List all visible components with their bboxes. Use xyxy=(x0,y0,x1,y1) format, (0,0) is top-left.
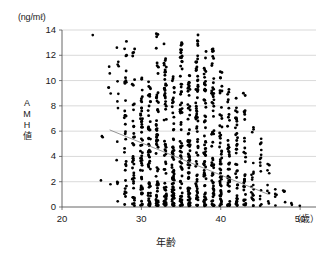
data-point xyxy=(149,100,152,103)
data-point xyxy=(155,139,158,142)
data-point xyxy=(196,116,199,119)
data-point xyxy=(195,105,198,108)
data-point xyxy=(125,70,128,73)
data-point xyxy=(109,92,112,95)
data-point xyxy=(236,136,239,139)
data-point xyxy=(163,182,166,185)
data-point xyxy=(210,133,213,136)
y-tick-label-10: 10 xyxy=(34,75,56,86)
data-point xyxy=(147,114,150,117)
data-point xyxy=(260,149,263,152)
data-point xyxy=(204,154,207,157)
data-point xyxy=(123,151,126,154)
data-point xyxy=(149,86,152,89)
data-point xyxy=(156,133,159,136)
data-point xyxy=(203,73,206,76)
data-point xyxy=(140,131,143,134)
data-point xyxy=(259,195,262,198)
data-point xyxy=(196,180,199,183)
data-point xyxy=(196,138,199,141)
data-point xyxy=(243,147,246,150)
data-point xyxy=(163,168,166,171)
data-point xyxy=(196,43,199,46)
data-point xyxy=(140,78,143,81)
data-point xyxy=(180,142,183,145)
data-point xyxy=(227,147,230,150)
data-point xyxy=(211,141,214,144)
data-point xyxy=(157,101,160,104)
data-point xyxy=(165,118,168,121)
data-point xyxy=(236,187,239,190)
data-point xyxy=(181,144,184,147)
data-point xyxy=(117,107,120,110)
data-point xyxy=(204,204,207,207)
data-point xyxy=(173,172,176,175)
data-point xyxy=(244,173,247,176)
data-point xyxy=(227,116,230,119)
data-point xyxy=(196,75,199,78)
data-point xyxy=(124,195,127,198)
data-point xyxy=(187,107,190,110)
data-point xyxy=(243,140,246,143)
data-point xyxy=(148,105,151,108)
data-point xyxy=(147,163,150,166)
data-point xyxy=(213,129,216,132)
data-point xyxy=(219,176,222,179)
data-point xyxy=(259,164,262,167)
data-point xyxy=(123,147,126,150)
data-point xyxy=(196,154,199,157)
data-point xyxy=(196,57,199,60)
data-point xyxy=(155,152,158,155)
data-point xyxy=(147,94,150,97)
data-point xyxy=(194,61,197,64)
data-point xyxy=(204,70,207,73)
data-point xyxy=(220,117,223,120)
data-point xyxy=(283,190,286,193)
data-point xyxy=(147,151,150,154)
data-point xyxy=(203,195,206,198)
data-point xyxy=(235,106,238,109)
data-point xyxy=(188,192,191,195)
data-point xyxy=(220,85,223,88)
data-point xyxy=(125,115,128,118)
y-tick-label-12: 12 xyxy=(34,49,56,60)
data-point xyxy=(133,78,136,81)
data-point xyxy=(212,115,215,118)
data-point xyxy=(163,87,166,90)
data-point xyxy=(148,199,151,202)
data-point xyxy=(259,204,262,207)
data-point xyxy=(108,65,111,68)
data-point xyxy=(203,184,206,187)
data-point xyxy=(163,78,166,81)
data-point xyxy=(171,151,174,154)
data-point xyxy=(172,101,175,104)
data-point xyxy=(252,162,255,165)
data-point xyxy=(132,155,135,158)
data-point xyxy=(227,98,230,101)
data-point xyxy=(196,79,199,82)
data-point xyxy=(164,103,167,106)
data-point xyxy=(180,56,183,59)
y-tick-label-0: 0 xyxy=(34,201,56,212)
data-point xyxy=(131,55,134,58)
data-point xyxy=(227,144,230,147)
data-point xyxy=(210,161,213,164)
data-point xyxy=(259,198,262,201)
data-point xyxy=(211,157,214,160)
data-point xyxy=(132,187,135,190)
data-point xyxy=(179,195,182,198)
data-point xyxy=(171,79,174,82)
data-point xyxy=(123,203,126,206)
data-point xyxy=(141,89,144,92)
data-point xyxy=(187,199,190,202)
data-point xyxy=(235,176,238,179)
data-point xyxy=(226,93,229,96)
data-point xyxy=(188,88,191,91)
data-point xyxy=(212,166,215,169)
data-point xyxy=(274,188,277,191)
data-point xyxy=(188,74,191,77)
data-point xyxy=(194,88,197,91)
data-point xyxy=(212,181,215,184)
data-point xyxy=(141,169,144,172)
data-point xyxy=(213,204,216,207)
